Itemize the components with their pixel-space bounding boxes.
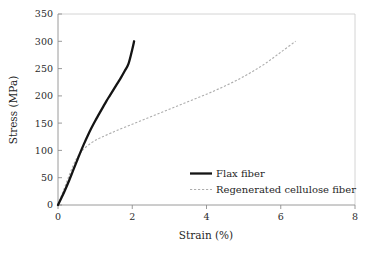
y-axis-title: Stress (MPa) — [7, 76, 19, 145]
legend-label-flax-fiber: Flax fiber — [216, 168, 265, 179]
x-axis-title: Strain (%) — [179, 229, 233, 241]
x-tick-label-4: 4 — [203, 211, 209, 222]
x-tick-label-0: 0 — [55, 211, 61, 222]
y-tick-label-200: 200 — [35, 90, 53, 101]
x-tick-label-8: 8 — [352, 211, 358, 222]
chart-canvas: 0 50 100 150 200 250 300 350 0 2 4 6 8 S… — [0, 0, 374, 254]
x-tick-label-6: 6 — [278, 211, 284, 222]
y-tick-label-150: 150 — [35, 118, 53, 129]
stress-strain-chart: 0 50 100 150 200 250 300 350 0 2 4 6 8 S… — [0, 0, 374, 254]
x-tick-label-2: 2 — [129, 211, 135, 222]
legend-label-regenerated-cellulose-fiber: Regenerated cellulose fiber — [216, 184, 356, 195]
y-tick-label-250: 250 — [35, 63, 53, 74]
y-tick-label-100: 100 — [35, 145, 53, 156]
y-tick-label-300: 300 — [35, 36, 53, 47]
y-tick-label-50: 50 — [41, 172, 53, 183]
y-tick-label-0: 0 — [47, 199, 53, 210]
y-tick-label-350: 350 — [35, 8, 53, 19]
